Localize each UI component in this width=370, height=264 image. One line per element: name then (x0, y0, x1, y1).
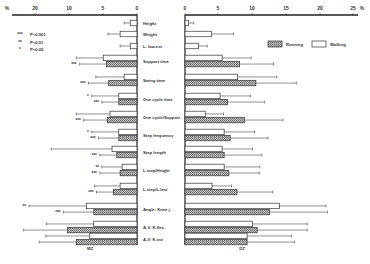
category-label: One cycle/Support (143, 115, 181, 120)
significance-mark: ** (95, 165, 99, 170)
left-tick-label: 10 (66, 5, 72, 11)
significance-mark: *** (75, 118, 81, 123)
right-tick-label: 25 (350, 5, 356, 11)
bar (185, 189, 237, 195)
significance-mark: ** (22, 204, 26, 209)
right-tick-label: 10 (249, 5, 255, 11)
bar (119, 93, 137, 99)
category-label: A-V: K.ext (143, 237, 163, 242)
bar (130, 43, 137, 49)
significance-mark: *** (80, 81, 86, 86)
significance-mark: *** (71, 62, 77, 67)
bar (120, 31, 137, 37)
bar (185, 146, 222, 152)
bar (90, 233, 137, 239)
bar (109, 80, 137, 86)
bar (185, 61, 240, 67)
category-label: Weight (143, 32, 157, 37)
panel-label-dz: DZ (239, 246, 245, 251)
significance-mark: *** (92, 153, 98, 158)
significance-legend-label: P<0.001 (30, 32, 46, 37)
left-tick-label: 0 (136, 5, 139, 11)
significance-legend: ***P<0.001**P<0.01*P<0.05 (17, 32, 46, 52)
bar (185, 55, 222, 61)
bar (185, 209, 269, 215)
bar (112, 146, 137, 152)
bar (185, 152, 224, 158)
bar (185, 74, 238, 80)
category-label: Step frequency (143, 133, 174, 138)
bar (67, 227, 137, 233)
bar (122, 164, 137, 170)
bar (76, 239, 137, 245)
bar (185, 164, 224, 170)
legend-label-running: Running (286, 42, 303, 47)
bar (185, 129, 224, 135)
left-tick-label: % (5, 5, 10, 11)
bar (117, 152, 137, 158)
category-label: Swing time (143, 78, 166, 83)
significance-mark: * (87, 130, 89, 135)
significance-mark: *** (55, 210, 61, 215)
legend: RunningWalking (268, 41, 346, 47)
category-label: L. low.ext (143, 44, 163, 49)
significance-legend-label: P<0.01 (30, 40, 44, 45)
bar (113, 189, 137, 195)
bar (120, 183, 137, 189)
bar (107, 61, 137, 67)
bar (185, 170, 229, 176)
left-tick-label: 5 (102, 5, 105, 11)
category-label: One cycle time (143, 97, 173, 102)
bar (110, 111, 137, 117)
bar (185, 203, 280, 209)
bar (94, 209, 137, 215)
right-tick-label: 5 (217, 5, 220, 11)
bar (185, 31, 211, 37)
right-tick-label: 20 (317, 5, 323, 11)
category-labels: HeightWeightL. low.extSupport timeSwing … (143, 21, 181, 242)
bar (119, 135, 137, 141)
bar (185, 111, 205, 117)
significance-mark: *** (90, 136, 96, 141)
bar (94, 221, 137, 227)
bar (120, 170, 137, 176)
bar (119, 129, 137, 135)
bar (185, 183, 212, 189)
bars: ********************************* (22, 20, 327, 245)
category-label: Angle: Knee j. (143, 207, 171, 212)
right-tick-label: % (360, 5, 365, 11)
category-label: L.step/Height (143, 168, 170, 173)
right-tick-label: 15 (283, 5, 289, 11)
bar (185, 233, 247, 239)
bar (185, 99, 228, 105)
legend-label-walking: Walking (330, 42, 346, 47)
bar (119, 99, 137, 105)
legend-swatch-running (268, 41, 282, 47)
legend-swatch-walking (312, 41, 326, 47)
left-tick-label: 20 (32, 5, 38, 11)
category-label: L.step/L.lext (143, 187, 168, 192)
bar (185, 20, 188, 26)
category-label: A-V: K.flex. (143, 225, 165, 230)
bar (185, 43, 199, 49)
significance-legend-mark: ** (18, 40, 22, 45)
bar (124, 74, 137, 80)
bar (130, 20, 137, 26)
bar (185, 80, 256, 86)
significance-legend-mark: *** (17, 32, 23, 37)
bar (185, 135, 230, 141)
butterfly-bar-chart: %2010500510152025% *********************… (0, 0, 370, 264)
significance-mark: * (87, 94, 89, 99)
bar (103, 55, 137, 61)
significance-mark: *** (94, 100, 100, 105)
panel-labels: MZDZ (87, 246, 245, 251)
bar (185, 227, 257, 233)
category-label: Support time (143, 59, 169, 64)
panel-label-mz: MZ (87, 246, 93, 251)
category-label: Step length (143, 150, 166, 155)
right-tick-label: 0 (184, 5, 187, 11)
significance-legend-label: P<0.05 (30, 47, 44, 52)
significance-mark: *** (92, 171, 98, 176)
significance-legend-mark: * (19, 47, 21, 52)
bar (185, 93, 220, 99)
